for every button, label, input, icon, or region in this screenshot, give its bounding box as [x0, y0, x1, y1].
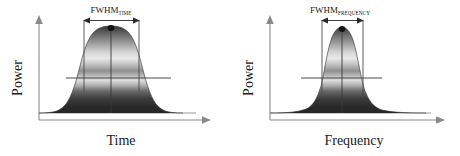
y-axis-label-frequency: Power	[241, 60, 256, 96]
x-axis-label-time: Time	[106, 133, 135, 148]
y-axis-time	[35, 15, 43, 120]
fwhm-label-frequency: FWHMFREQUENCY	[310, 5, 370, 16]
peak-marker-frequency	[339, 26, 345, 32]
y-axis-frequency	[266, 15, 274, 120]
power-curve-time	[30, 20, 210, 116]
x-axis-frequency	[270, 116, 445, 124]
fwhm-label-main-time: FWHM	[90, 5, 118, 15]
chart-panel-time: FWHMTIME Power Time	[0, 0, 230, 156]
fwhm-double-arrow-frequency	[321, 18, 364, 24]
fwhm-time-frequency-figure: FWHMTIME Power Time	[0, 0, 460, 156]
x-axis-label-frequency: Frequency	[324, 133, 383, 148]
power-curve-frequency	[262, 20, 442, 116]
fwhm-double-arrow-time	[83, 18, 140, 24]
fwhm-label-subscript-frequency: FREQUENCY	[338, 10, 370, 16]
peak-marker-time	[108, 25, 115, 31]
x-axis-time	[39, 116, 211, 124]
fwhm-label-time: FWHMTIME	[90, 5, 131, 16]
fwhm-label-subscript-time: TIME	[118, 10, 131, 16]
chart-panel-frequency: FWHMFREQUENCY Power Frequency	[230, 0, 460, 156]
fwhm-label-main-frequency: FWHM	[310, 5, 338, 15]
y-axis-label-time: Power	[10, 60, 25, 96]
